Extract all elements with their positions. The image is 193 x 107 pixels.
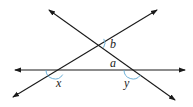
label-x: x [55, 76, 62, 90]
label-a: a [110, 56, 116, 70]
diagram-svg: b a x y [0, 0, 193, 107]
angle-b-arc [104, 39, 105, 48]
angle-diagram: b a x y [0, 0, 193, 107]
rising-line [13, 10, 157, 97]
label-y: y [123, 76, 130, 90]
label-b: b [110, 37, 116, 51]
falling-line [49, 10, 175, 100]
